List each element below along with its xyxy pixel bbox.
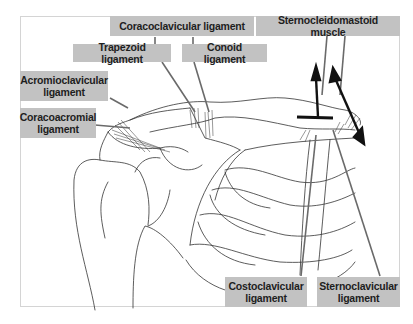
label-costoclavicular-ligament: Costoclavicular ligament xyxy=(225,277,307,307)
label-coracoacromial-ligament: Coracoacromial ligament xyxy=(20,108,96,138)
label-coracoclavicular-ligament: Coracoclavicular ligament xyxy=(110,16,254,36)
label-trapezoid-ligament: Trapezoid ligament xyxy=(73,44,171,62)
label-sternoclavicular-ligament: Sternoclavicular ligament xyxy=(317,277,400,307)
humerus-medial xyxy=(133,226,183,308)
coracoid xyxy=(190,108,240,150)
rib-2 xyxy=(225,168,355,183)
label-sternocleidomastoid-muscle: Sternocleidomastoid muscle xyxy=(256,16,400,36)
label-acromioclavicular-ligament: Acromioclavicular ligament xyxy=(20,71,108,101)
rib-5 xyxy=(190,244,352,262)
ligament-fibres xyxy=(112,108,360,152)
muscle-arrows xyxy=(297,66,364,144)
humerus-inner xyxy=(101,182,108,238)
rib-3 xyxy=(212,188,355,206)
label-conoid-ligament: Conoid ligament xyxy=(182,44,267,62)
acromion-outline xyxy=(100,108,190,160)
humerus-outline xyxy=(74,159,149,310)
